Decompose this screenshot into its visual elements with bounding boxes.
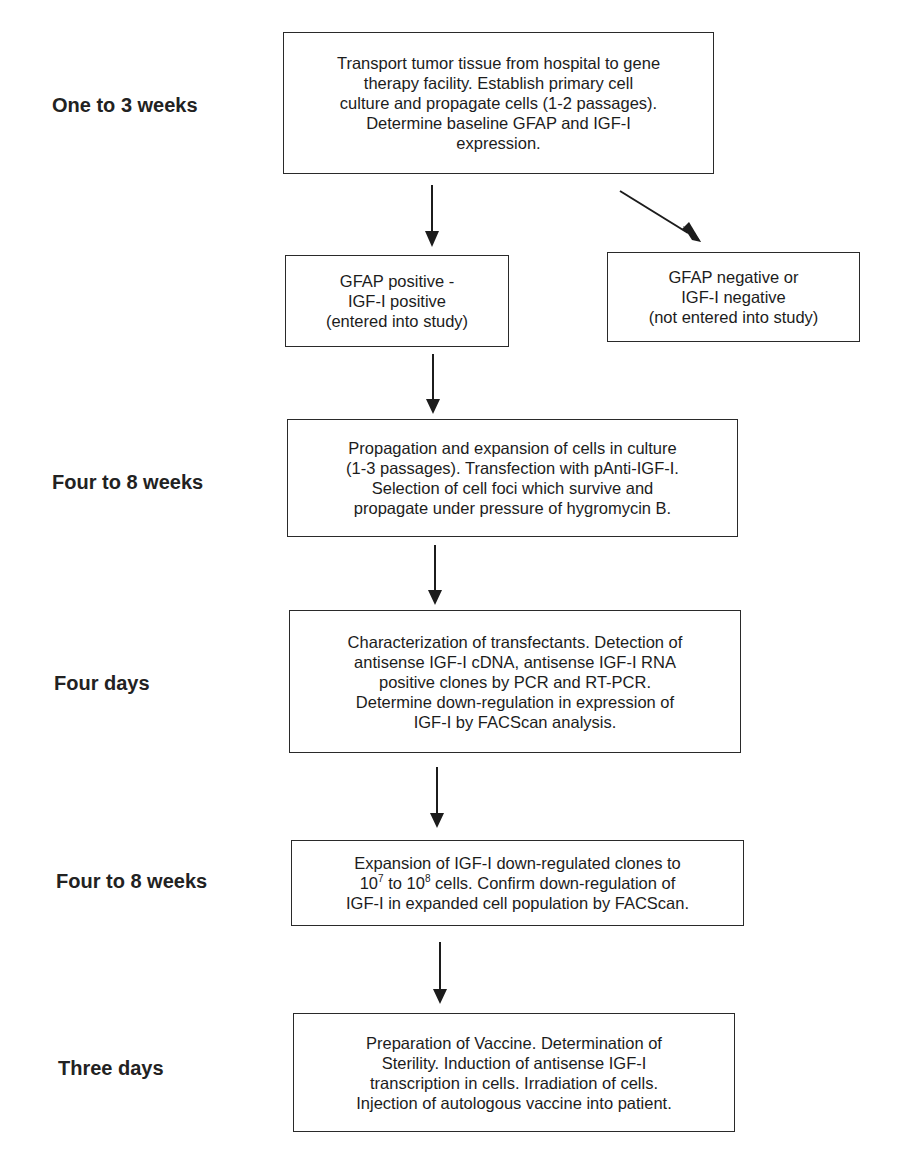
box-text-line: positive clones by PCR and RT-PCR.	[348, 672, 683, 692]
box-text-line: Sterility. Induction of antisense IGF-I	[356, 1053, 672, 1073]
box-text-line: IGF-I positive	[326, 291, 468, 311]
exponent: 8	[425, 873, 431, 884]
box-propagation-transfection: Propagation and expansion of cells in cu…	[287, 419, 738, 537]
box-transport-tissue: Transport tumor tissue from hospital to …	[283, 32, 714, 174]
box-text-line: expression.	[337, 133, 660, 153]
box-text-line: IGF-I by FACScan analysis.	[348, 712, 683, 732]
box-text-line: antisense IGF-I cDNA, antisense IGF-I RN…	[348, 652, 683, 672]
box-gfap-negative: GFAP negative or IGF-I negative (not ent…	[607, 252, 860, 342]
box-text-line: (not entered into study)	[649, 307, 819, 327]
box-text-line: Propagation and expansion of cells in cu…	[346, 438, 679, 458]
stage-label-three-days: Three days	[58, 1058, 164, 1078]
stage-label-one-to-3-weeks: One to 3 weeks	[52, 95, 198, 115]
stage-label-four-to-8-weeks-2: Four to 8 weeks	[56, 871, 207, 891]
stage-label-four-days: Four days	[54, 673, 150, 693]
box-text-line: GFAP negative or	[649, 267, 819, 287]
arrow-down-icon	[433, 942, 447, 1004]
arrow-diagonal-icon	[620, 191, 701, 242]
box-text-line: Determine baseline GFAP and IGF-I	[337, 113, 660, 133]
box-text-line: Injection of autologous vaccine into pat…	[356, 1093, 672, 1113]
exponent: 7	[378, 873, 384, 884]
box-text-line: Preparation of Vaccine. Determination of	[356, 1033, 672, 1053]
box-text-line: IGF-I negative	[649, 287, 819, 307]
box-text-line: Determine down-regulation in expression …	[348, 692, 683, 712]
box-characterization: Characterization of transfectants. Detec…	[289, 610, 741, 753]
box-expansion-clones: Expansion of IGF-I down-regulated clones…	[291, 840, 744, 926]
box-text-line: (1-3 passages). Transfection with pAnti-…	[346, 458, 679, 478]
box-vaccine-preparation: Preparation of Vaccine. Determination of…	[293, 1013, 735, 1132]
box-text-line-with-exponents: 107 to 108 cells. Confirm down-regulatio…	[346, 873, 689, 893]
box-text-line: (entered into study)	[326, 311, 468, 331]
box-text-line: Selection of cell foci which survive and	[346, 478, 679, 498]
box-text-line: transcription in cells. Irradiation of c…	[356, 1073, 672, 1093]
arrow-down-icon	[426, 354, 440, 414]
box-text-line: Characterization of transfectants. Detec…	[348, 632, 683, 652]
box-text-line: propagate under pressure of hygromycin B…	[346, 498, 679, 518]
arrow-down-icon	[425, 185, 439, 247]
stage-label-four-to-8-weeks-1: Four to 8 weeks	[52, 472, 203, 492]
box-gfap-positive: GFAP positive - IGF-I positive (entered …	[285, 255, 509, 347]
box-text-line: IGF-I in expanded cell population by FAC…	[346, 893, 689, 913]
arrow-down-icon	[430, 767, 444, 828]
box-text-line: therapy facility. Establish primary cell	[337, 73, 660, 93]
box-text-line: Expansion of IGF-I down-regulated clones…	[346, 853, 689, 873]
box-text-line: culture and propagate cells (1-2 passage…	[337, 93, 660, 113]
box-text-line: Transport tumor tissue from hospital to …	[337, 53, 660, 73]
arrow-down-icon	[428, 545, 442, 605]
box-text-line: GFAP positive -	[326, 271, 468, 291]
